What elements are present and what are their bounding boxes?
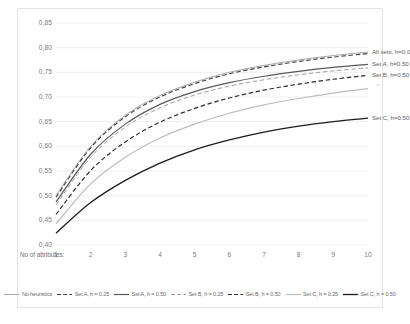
series-lines: [18, 9, 382, 307]
x-axis-title: No of attributes:: [20, 251, 64, 258]
y-axis-tick-label: 0,60: [26, 142, 52, 149]
series-line: [56, 118, 368, 233]
legend-label: Set C, h = 0.50: [361, 291, 396, 297]
legend-swatch: [171, 292, 186, 297]
legend-swatch: [57, 292, 72, 297]
x-axis-tick-label: 2: [84, 251, 98, 258]
legend-label: Set A, h = 0.25: [75, 291, 109, 297]
series-annotation: Set C, h=0.50: [372, 114, 409, 121]
legend-swatch: [286, 292, 301, 297]
legend-swatch: [4, 292, 19, 297]
legend-label: Set B, h = 0.25: [189, 291, 224, 297]
legend-item[interactable]: Set B, h = 0.50: [228, 291, 280, 297]
y-axis-tick-label: 0,80: [26, 44, 52, 51]
decorative-mark: •: [377, 81, 379, 88]
series-annotation: All sets, h=0.0: [372, 48, 410, 55]
legend-item[interactable]: Set A, h = 0.25: [57, 291, 109, 297]
y-axis-tick-label: 0,70: [26, 93, 52, 100]
x-axis-tick-label: 6: [222, 251, 236, 258]
y-axis-tick-label: 0,85: [26, 19, 52, 26]
chart-legend: No heuristicsSet A, h = 0.25Set A, h = 0…: [18, 291, 382, 297]
legend-label: Set B, h = 0.50: [246, 291, 281, 297]
y-axis-tick-label: 0,45: [26, 216, 52, 223]
legend-label: Set C, h = 0.25: [303, 291, 338, 297]
legend-item[interactable]: Set B, h = 0.25: [171, 291, 223, 297]
legend-label: No heuristics: [22, 291, 52, 297]
plot-area: 0,400,450,500,550,600,650,700,750,800,85…: [18, 9, 382, 307]
y-axis-tick-label: 0,40: [26, 241, 52, 248]
legend-label: Set A, h = 0.50: [132, 291, 166, 297]
legend-swatch: [228, 292, 243, 297]
x-axis-tick-label: 7: [257, 251, 271, 258]
series-line: [56, 54, 368, 198]
x-axis-tick-label: 10: [361, 251, 375, 258]
x-axis-tick-label: 5: [188, 251, 202, 258]
legend-swatch: [114, 292, 129, 297]
legend-item[interactable]: Set C, h = 0.50: [343, 291, 396, 297]
x-axis-tick-label: 3: [118, 251, 132, 258]
chart-container: 0,400,450,500,550,600,650,700,750,800,85…: [17, 8, 383, 308]
y-axis-tick-label: 0,50: [26, 192, 52, 199]
series-line: [56, 89, 368, 224]
series-annotation: Set A, h=0.50: [372, 60, 409, 67]
legend-item[interactable]: Set A, h = 0.50: [114, 291, 166, 297]
y-axis-tick-label: 0,55: [26, 167, 52, 174]
legend-swatch: [343, 292, 358, 297]
series-line: [56, 52, 368, 196]
x-axis-tick-label: 8: [292, 251, 306, 258]
series-line: [56, 68, 368, 205]
legend-item[interactable]: No heuristics: [4, 291, 52, 297]
series-annotation: Set B, h=0.50: [372, 71, 409, 78]
x-axis-tick-label: 9: [326, 251, 340, 258]
x-axis-tick-label: 4: [153, 251, 167, 258]
y-axis-tick-label: 0,75: [26, 68, 52, 75]
legend-item[interactable]: Set C, h = 0.25: [286, 291, 339, 297]
y-axis-tick-label: 0,65: [26, 118, 52, 125]
